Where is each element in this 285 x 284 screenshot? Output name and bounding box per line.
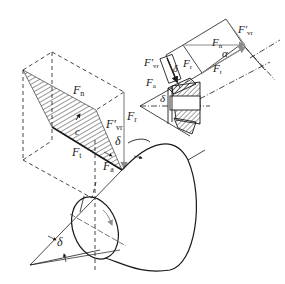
svg-text:δ: δ — [173, 63, 178, 74]
inset-gear-view — [140, 19, 280, 136]
svg-text:Ft: Ft — [71, 145, 82, 160]
svg-text:α: α — [222, 47, 228, 59]
svg-text:c: c — [75, 126, 80, 137]
svg-text:Fr: Fr — [126, 109, 137, 124]
bevel-gear-force-diagram: Fn F'vr Fr Ft Fa δ c δ — [0, 0, 285, 284]
svg-text:Fr: Fr — [182, 57, 193, 71]
svg-text:Fa: Fa — [145, 76, 157, 90]
svg-text:δ: δ — [115, 134, 121, 148]
svg-text:F'vr: F'vr — [105, 117, 123, 132]
svg-text:δ: δ — [160, 92, 166, 104]
svg-text:Ft: Ft — [212, 62, 222, 76]
svg-text:Fn: Fn — [72, 83, 84, 98]
svg-text:F'vr: F'vr — [237, 23, 254, 37]
svg-text:Fn: Fn — [211, 36, 223, 50]
svg-text:δ: δ — [57, 235, 63, 249]
svg-text:F'vr: F'vr — [143, 56, 160, 70]
